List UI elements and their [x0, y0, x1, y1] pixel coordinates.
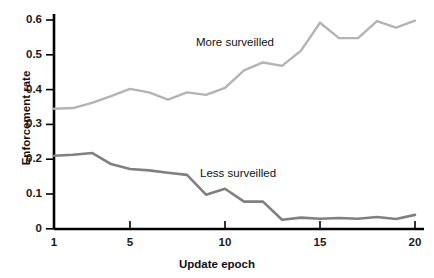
y-tick-label: 0: [12, 222, 42, 234]
series-label-less-surveilled: Less surveilled: [200, 167, 276, 179]
series-line-less-surveilled: [54, 153, 415, 220]
y-tick-label: 0.6: [12, 13, 42, 25]
x-tick-label: 1: [39, 236, 69, 248]
x-tick-label: 10: [210, 236, 240, 248]
x-tick-label: 5: [115, 236, 145, 248]
x-tick-label: 20: [400, 236, 430, 248]
enforcement-rate-line-chart: 00.10.20.30.40.50.6 15101520 Enforcement…: [0, 0, 434, 278]
y-tick-label: 0.1: [12, 187, 42, 199]
series-line-more-surveilled: [54, 21, 415, 109]
x-axis-title: Update epoch: [0, 258, 434, 270]
x-tick-label: 15: [305, 236, 335, 248]
series-label-more-surveilled: More surveilled: [196, 36, 274, 48]
y-axis-title: Enforcement rate: [20, 48, 32, 188]
